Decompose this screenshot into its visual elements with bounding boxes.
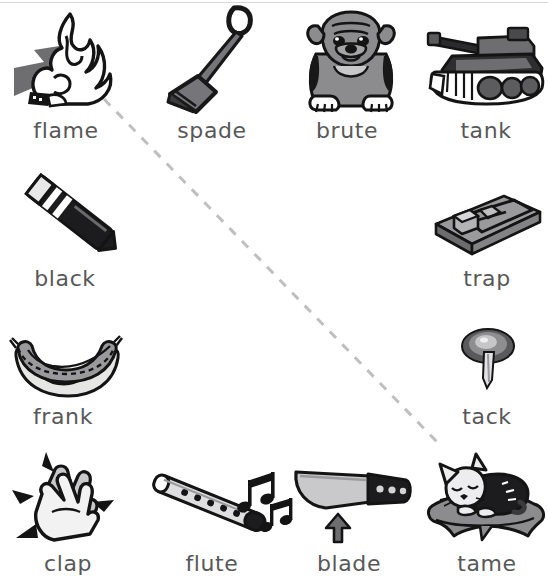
thumbtack-icon xyxy=(454,326,526,392)
hotdog-icon xyxy=(8,334,126,406)
flute-icon xyxy=(148,454,293,550)
item-label-flute: flute xyxy=(186,551,239,576)
mousetrap-icon xyxy=(428,190,544,268)
diagonal-dashed-line xyxy=(104,99,441,446)
item-blade[interactable]: blade xyxy=(290,440,414,582)
item-black[interactable]: black xyxy=(0,148,140,293)
item-label-flame: flame xyxy=(33,118,98,143)
spade-shovel-icon xyxy=(162,2,262,114)
item-tack[interactable]: tack xyxy=(420,288,548,433)
item-label-brute: brute xyxy=(316,118,378,143)
item-spade[interactable]: spade xyxy=(150,0,274,145)
flame-icon xyxy=(4,6,124,116)
crayon-icon xyxy=(10,162,128,262)
item-flame[interactable]: flame xyxy=(0,0,132,145)
item-tame[interactable]: tame xyxy=(418,440,548,582)
item-flute[interactable]: flute xyxy=(144,440,294,582)
item-label-clap: clap xyxy=(44,551,92,576)
item-label-frank: frank xyxy=(33,404,93,429)
item-label-spade: spade xyxy=(177,118,246,143)
clapping-hands-icon xyxy=(8,450,128,550)
item-label-tank: tank xyxy=(460,118,511,143)
item-frank[interactable]: frank xyxy=(0,288,140,433)
bulldog-icon xyxy=(294,10,406,116)
item-clap[interactable]: clap xyxy=(0,440,140,582)
cat-on-pillow-icon xyxy=(424,454,546,546)
item-label-tame: tame xyxy=(457,551,516,576)
item-label-blade: blade xyxy=(317,551,381,576)
item-tank[interactable]: tank xyxy=(420,0,548,145)
item-trap[interactable]: trap xyxy=(420,148,548,293)
item-label-tack: tack xyxy=(462,404,511,429)
item-brute[interactable]: brute xyxy=(286,0,412,145)
knife-blade-icon xyxy=(292,458,412,546)
tank-icon xyxy=(422,14,548,110)
worksheet-canvas: flame spade xyxy=(0,0,548,582)
